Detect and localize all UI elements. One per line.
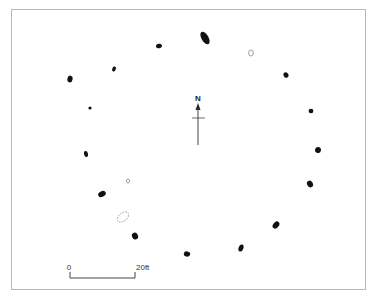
north-arrow: N	[192, 94, 205, 145]
north-label: N	[195, 94, 201, 103]
standing-stone	[315, 147, 322, 154]
standing-stone	[183, 251, 190, 257]
stone-socket-outline	[249, 50, 254, 56]
standing-stone	[198, 30, 211, 46]
outlined-stones-group	[115, 50, 253, 224]
standing-stone	[306, 179, 314, 188]
standing-stone	[88, 106, 91, 109]
standing-stone	[111, 66, 116, 72]
fallen-stone-outline	[115, 210, 130, 224]
scale-bar: 0 20ft	[67, 263, 150, 278]
scale-line	[70, 272, 135, 278]
standing-stone	[309, 109, 314, 113]
standing-stone	[131, 232, 139, 241]
stones-group	[67, 30, 322, 257]
standing-stone	[283, 71, 290, 78]
standing-stone	[97, 190, 107, 198]
standing-stone	[156, 43, 163, 49]
standing-stone	[84, 151, 89, 158]
scale-start-label: 0	[67, 263, 72, 272]
scale-end-label: 20ft	[136, 263, 150, 272]
standing-stone	[271, 220, 280, 230]
stone-socket-outline	[126, 179, 129, 183]
standing-stone	[238, 244, 245, 252]
stone-circle-plan: N 0 20ft	[0, 0, 377, 299]
standing-stone	[67, 75, 73, 83]
